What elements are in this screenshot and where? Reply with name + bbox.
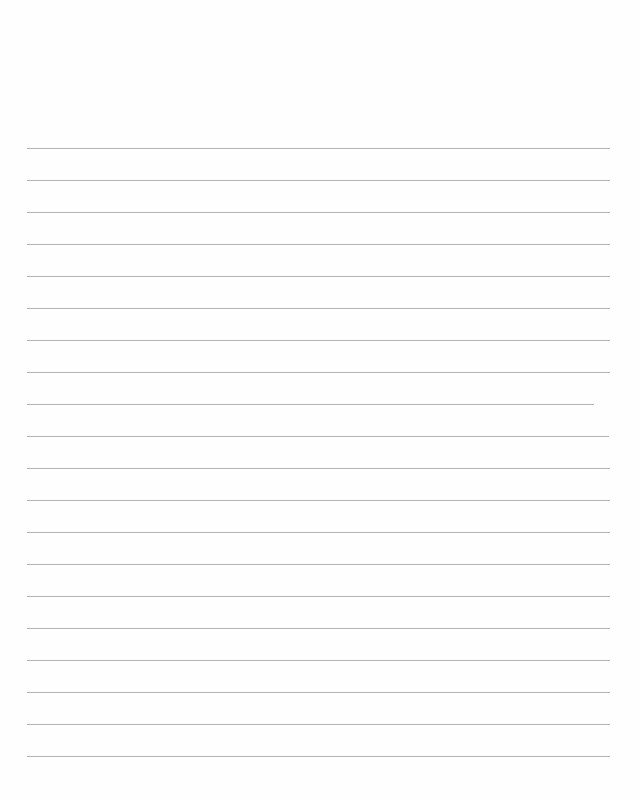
ruled-line [27, 628, 610, 629]
ruled-line [27, 372, 610, 373]
ruled-line [27, 724, 610, 725]
ruled-line [27, 468, 610, 469]
ruled-line [27, 596, 610, 597]
ruled-line [27, 532, 610, 533]
ruled-line [27, 244, 610, 245]
lined-page [0, 0, 640, 801]
ruled-line [27, 756, 610, 757]
ruled-line [27, 692, 610, 693]
ruled-line [27, 180, 610, 181]
ruled-line [27, 340, 610, 341]
ruled-line [27, 564, 610, 565]
ruled-line [27, 404, 594, 405]
ruled-line [27, 276, 610, 277]
ruled-line [27, 148, 610, 149]
ruled-line [27, 308, 610, 309]
ruled-line [27, 436, 609, 437]
ruled-line [27, 500, 610, 501]
ruled-line [27, 660, 610, 661]
ruled-line [27, 212, 610, 213]
